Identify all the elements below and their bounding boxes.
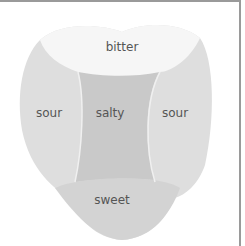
region-sweet: [55, 178, 180, 240]
tongue-diagram: [0, 0, 245, 246]
region-salty: [75, 70, 160, 182]
label-sour-left: sour: [36, 106, 62, 120]
label-bitter: bitter: [106, 40, 139, 54]
label-salty: salty: [96, 106, 125, 120]
label-sour-right: sour: [162, 106, 188, 120]
label-sweet: sweet: [94, 193, 130, 207]
